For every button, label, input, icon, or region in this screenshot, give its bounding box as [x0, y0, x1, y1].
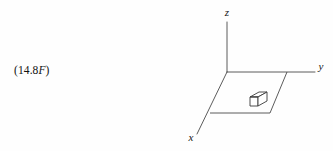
figure-page: (14.8F) z y x: [0, 0, 333, 151]
reference-close-paren: ): [46, 64, 50, 76]
y-axis-label: y: [318, 60, 324, 72]
area-element-box: [250, 92, 267, 106]
reference-prefix: (14.8: [14, 64, 38, 76]
plane-group: [210, 72, 287, 113]
coordinate-axes-diagram: z y x: [170, 0, 333, 151]
reference-italic-suffix: F: [38, 64, 45, 76]
x-axis-label: x: [188, 131, 194, 143]
z-axis-label: z: [224, 6, 230, 18]
equation-reference-label: (14.8F): [14, 64, 50, 76]
plane-right-edge: [270, 72, 287, 113]
axes-group: [197, 22, 315, 134]
x-axis-line: [197, 72, 227, 134]
box-front-face: [250, 97, 258, 106]
